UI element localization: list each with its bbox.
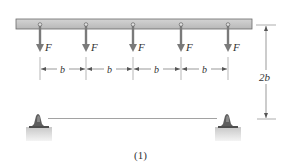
height-dimension: 2b	[256, 25, 276, 119]
left-support	[26, 114, 52, 141]
spacing-label-3: b	[154, 64, 159, 75]
force-label-4: F	[185, 41, 193, 53]
force-label-5: F	[232, 41, 240, 53]
force-labels: F F F F F	[44, 41, 240, 53]
height-label: 2b	[259, 71, 271, 83]
right-support	[215, 114, 241, 141]
spacing-label-2: b	[107, 64, 112, 75]
force-label-3: F	[137, 41, 145, 53]
figure-caption: (1)	[134, 149, 147, 162]
spacing-label-4: b	[202, 64, 207, 75]
force-label-2: F	[90, 41, 98, 53]
truss-load-diagram: F F F F F b b b b 2b	[0, 0, 291, 167]
extension-lines	[40, 57, 228, 80]
force-label-1: F	[44, 41, 52, 53]
spacing-label-1: b	[60, 64, 65, 75]
